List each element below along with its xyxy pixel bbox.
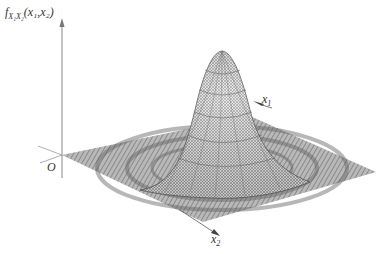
- z-axis-arrow-icon: [60, 18, 65, 27]
- origin-label: O: [47, 160, 56, 175]
- gaussian-surface-figure: [0, 0, 390, 254]
- x2-axis-label: x2: [211, 232, 220, 248]
- x1-axis-label: x1: [262, 92, 271, 108]
- z-axis-label: fX₁X₂(x₁,x₂): [5, 5, 54, 21]
